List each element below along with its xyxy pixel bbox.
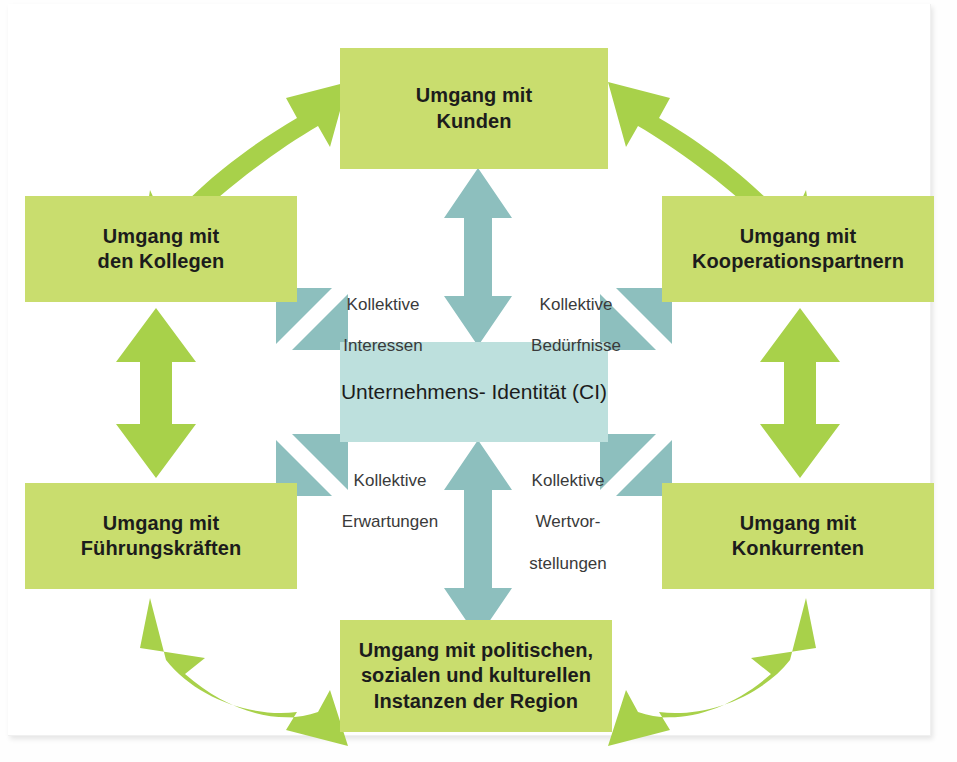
node-umgang-mit-kooperationspartnern: Umgang mit Kooperationspartnern (662, 196, 934, 302)
connector-label-line1: Kollektive (532, 471, 605, 490)
node-umgang-mit-kunden: Umgang mit Kunden (340, 48, 608, 169)
connector-label-kollektive-beduerfnisse: Kollektive Bedürfnisse (506, 274, 646, 357)
connector-label-kollektive-wertvorstellungen: Kollektive Wertvor- stellungen (508, 450, 628, 574)
center-label-line2: Identität (CI) (492, 380, 608, 403)
node-label-line2: den Kollegen (98, 249, 225, 274)
node-label-line3: Instanzen der Region (359, 689, 594, 714)
node-umgang-mit-instanzen-der-region: Umgang mit politischen, sozialen und kul… (340, 620, 612, 732)
diagram-canvas: Unternehmens- Identität (CI) Umgang mit … (0, 0, 957, 762)
connector-label-line3: stellungen (529, 554, 607, 573)
node-label-line2: Konkurrenten (732, 536, 864, 561)
node-label-line1: Umgang mit (81, 511, 241, 536)
node-label-line2: Führungskräften (81, 536, 241, 561)
center-label-line1: Unternehmens- (341, 380, 486, 403)
connector-label-line2: Wertvor- (536, 512, 601, 531)
node-label-line2: sozialen und kulturellen (359, 663, 594, 688)
node-umgang-mit-konkurrenten: Umgang mit Konkurrenten (662, 483, 934, 589)
connector-label-line1: Kollektive (354, 471, 427, 490)
node-label-line1: Umgang mit (416, 83, 533, 108)
node-label-line1: Umgang mit (732, 511, 864, 536)
connector-label-kollektive-erwartungen: Kollektive Erwartungen (324, 450, 456, 533)
node-umgang-mit-den-kollegen: Umgang mit den Kollegen (25, 196, 297, 302)
connector-label-line1: Kollektive (540, 295, 613, 314)
connector-label-line1: Kollektive (347, 295, 420, 314)
node-label-line1: Umgang mit (692, 224, 904, 249)
node-label-line2: Kooperationspartnern (692, 249, 904, 274)
node-umgang-mit-fuehrungskraeften: Umgang mit Führungskräften (25, 483, 297, 589)
node-label-line2: Kunden (416, 109, 533, 134)
node-label-line1: Umgang mit (98, 224, 225, 249)
center-node-unternehmens-identitaet: Unternehmens- Identität (CI) (340, 342, 608, 442)
connector-label-line2: Interessen (343, 336, 422, 355)
connector-label-line2: Bedürfnisse (531, 336, 621, 355)
connector-label-kollektive-interessen: Kollektive Interessen (322, 274, 444, 357)
connector-label-line2: Erwartungen (342, 512, 438, 531)
node-label-line1: Umgang mit politischen, (359, 638, 594, 663)
